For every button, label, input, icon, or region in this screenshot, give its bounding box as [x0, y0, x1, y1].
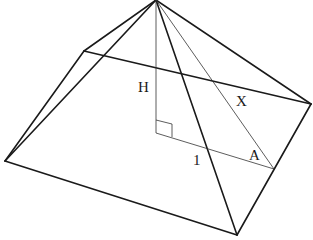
lateral-edge-left	[5, 0, 156, 161]
base-edge-front-left	[5, 161, 237, 235]
label-half-base: 1	[193, 152, 201, 168]
base-edge-left-back	[5, 51, 84, 161]
base-edge-front-right	[237, 104, 311, 235]
lateral-edge-right	[156, 0, 311, 104]
lateral-edge-back-left	[84, 0, 156, 51]
label-slant: X	[236, 93, 247, 109]
label-angle: A	[249, 147, 260, 163]
pyramid-diagram: H X 1 A	[0, 0, 313, 240]
right-angle-marker	[156, 120, 172, 137]
lateral-edge-front	[156, 0, 237, 235]
label-height: H	[138, 79, 149, 95]
slant-height-line	[156, 0, 274, 169]
